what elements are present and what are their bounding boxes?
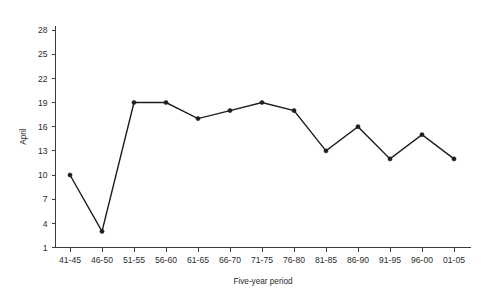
y-axis-tick-label: 16 xyxy=(38,122,48,132)
y-axis-tick-label: 4 xyxy=(43,219,48,229)
data-point-marker xyxy=(388,157,392,161)
x-axis-tick-label: 71-75 xyxy=(251,255,273,265)
x-axis-tick-label: 91-95 xyxy=(379,255,401,265)
x-axis-tick-label: 01-05 xyxy=(443,255,465,265)
x-axis-tick-label: 61-65 xyxy=(187,255,209,265)
x-axis-title: Five-year period xyxy=(233,277,293,286)
y-axis-tick-label: 13 xyxy=(38,146,48,156)
data-point-marker xyxy=(452,157,456,161)
data-series-line xyxy=(70,103,454,232)
x-axis-tick-label: 96-00 xyxy=(411,255,433,265)
data-point-marker xyxy=(132,100,136,104)
data-point-marker xyxy=(228,108,232,112)
x-axis-tick-label: 51-55 xyxy=(123,255,145,265)
y-axis-tick-label: 25 xyxy=(38,49,48,59)
y-axis-tick-label: 19 xyxy=(38,98,48,108)
x-axis-tick-label: 76-80 xyxy=(283,255,305,265)
data-point-marker xyxy=(100,229,104,233)
y-axis-tick-label: 7 xyxy=(43,194,48,204)
data-point-marker xyxy=(356,125,360,129)
data-point-marker xyxy=(292,108,296,112)
line-chart: 1471013161922252841-4546-5051-5556-6061-… xyxy=(0,0,486,302)
data-point-marker xyxy=(420,133,424,137)
y-axis-title: April xyxy=(19,128,28,145)
chart-canvas: 1471013161922252841-4546-5051-5556-6061-… xyxy=(0,0,486,302)
data-point-marker xyxy=(68,173,72,177)
data-point-marker xyxy=(260,100,264,104)
data-point-marker xyxy=(164,100,168,104)
data-point-marker xyxy=(324,149,328,153)
x-axis-tick-label: 66-70 xyxy=(219,255,241,265)
x-axis-tick-label: 41-45 xyxy=(59,255,81,265)
x-axis-tick-label: 81-85 xyxy=(315,255,337,265)
y-axis-tick-label: 1 xyxy=(43,243,48,253)
x-axis-tick-label: 46-50 xyxy=(91,255,113,265)
data-point-marker xyxy=(196,117,200,121)
y-axis-tick-label: 22 xyxy=(38,74,48,84)
y-axis-tick-label: 28 xyxy=(38,25,48,35)
x-axis-tick-label: 56-60 xyxy=(155,255,177,265)
x-axis-tick-label: 86-90 xyxy=(347,255,369,265)
y-axis-tick-label: 10 xyxy=(38,170,48,180)
